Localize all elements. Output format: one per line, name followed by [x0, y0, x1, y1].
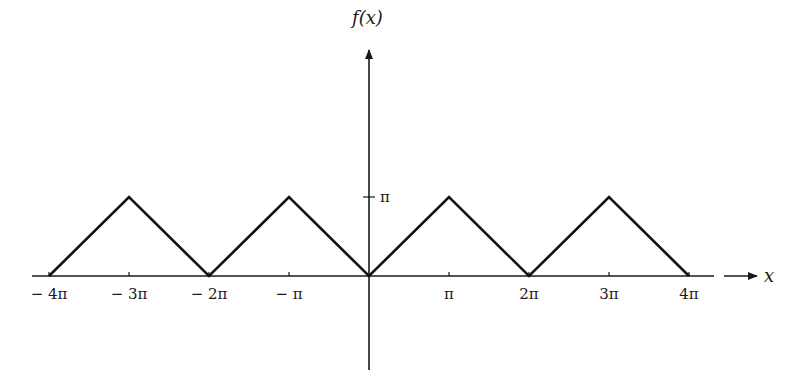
x-tick-label: 2π	[519, 285, 539, 303]
x-tick-label: − 2π	[191, 285, 228, 303]
x-tick-label: 4π	[679, 285, 699, 303]
x-tick-label: − 4π	[31, 285, 68, 303]
triangle-wave-chart: x f(x) − 4π− 3π− 2π− ππ2π3π4π π	[0, 0, 797, 390]
y-tick-label: π	[380, 188, 390, 206]
y-tick: π	[363, 188, 390, 206]
y-axis-label: f(x)	[350, 7, 383, 28]
x-axis-label: x	[764, 265, 774, 286]
x-tick-label: π	[444, 285, 454, 303]
x-tick-label: 3π	[599, 285, 619, 303]
x-tick-label: − π	[275, 285, 302, 303]
x-tick-label: − 3π	[111, 285, 148, 303]
y-ticks: π	[363, 188, 390, 206]
